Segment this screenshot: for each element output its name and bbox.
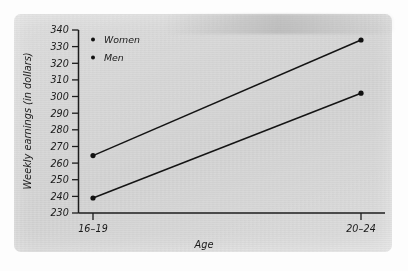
series-women-point-20-24: [358, 37, 363, 42]
x-tick-label-16-19: 16–19: [78, 223, 108, 234]
x-axis: 16–19 20–24: [78, 213, 385, 234]
chart-figure: 340 330 320 310 300 290 280 270 260 250 …: [0, 0, 408, 271]
series-men: [90, 91, 363, 201]
series-women: [90, 37, 363, 158]
legend-label-women: Women: [104, 34, 140, 45]
legend-label-men: Men: [104, 52, 124, 63]
y-tick-label-300: 300: [50, 91, 69, 102]
y-tick-label-240: 240: [50, 191, 69, 202]
y-tick-label-340: 340: [50, 24, 69, 35]
y-tick-label-320: 320: [50, 58, 69, 69]
series-men-point-16-19: [90, 195, 95, 200]
y-tick-label-330: 330: [50, 41, 69, 52]
y-tick-label-260: 260: [50, 158, 69, 169]
legend-item-men: Men: [91, 52, 124, 63]
series-women-line: [93, 40, 361, 156]
legend-item-women: Women: [91, 34, 140, 45]
x-tick-label-20-24: 20–24: [346, 223, 376, 234]
legend-dot-women-icon: [91, 38, 95, 42]
y-tick-label-310: 310: [50, 74, 69, 85]
series-men-point-20-24: [358, 91, 363, 96]
y-tick-label-280: 280: [50, 124, 69, 135]
y-axis-title: Weekly earnings (in dollars): [22, 52, 33, 189]
y-tick-label-230: 230: [50, 207, 69, 218]
y-tick-label-250: 250: [50, 174, 69, 185]
series-men-line: [93, 93, 361, 198]
y-axis: 340 330 320 310 300 290 280 270 260 250 …: [50, 24, 78, 218]
y-tick-label-290: 290: [50, 108, 69, 119]
x-axis-title: Age: [194, 239, 214, 250]
chart-legend: Women Men: [91, 34, 140, 63]
chart-svg: 340 330 320 310 300 290 280 270 260 250 …: [0, 0, 408, 271]
legend-dot-men-icon: [91, 56, 95, 60]
y-tick-label-270: 270: [50, 141, 69, 152]
series-women-point-16-19: [90, 153, 95, 158]
